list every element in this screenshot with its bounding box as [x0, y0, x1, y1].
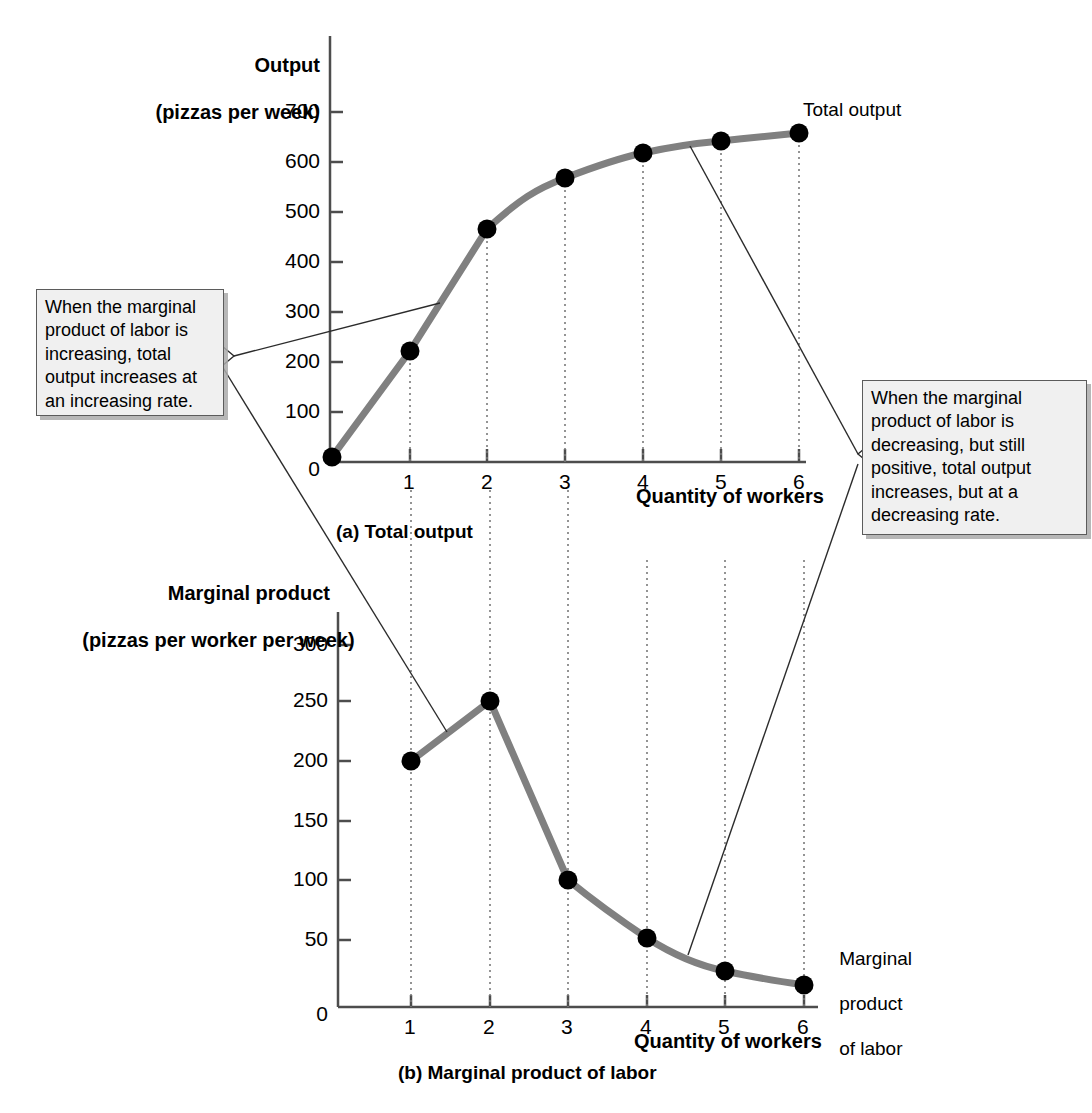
panel-a-ytick-700: 700	[250, 99, 320, 124]
panel-a-ytick-0: 0	[250, 457, 320, 482]
panel-a-x-axis-title: Quantity of workers	[636, 485, 824, 509]
panel-a-ytick-200: 200	[250, 349, 320, 374]
panel-a-data-markers	[323, 124, 809, 467]
figure-svg	[0, 0, 1092, 1113]
panel-b-y-axis-title-line1: Marginal product	[168, 582, 330, 604]
panel-b-data-markers	[402, 692, 814, 995]
panel-b-caption: (b) Marginal product of labor	[398, 1062, 657, 1084]
panel-a-ytick-600: 600	[250, 149, 320, 174]
marginal-product-curve-label-line1: Marginal	[839, 948, 912, 969]
panel-b-ytick-300: 300	[258, 632, 328, 657]
callout-diminishing-returns: When the marginal product of labor is de…	[862, 380, 1087, 535]
panel-a-axes	[330, 36, 806, 462]
panel-a-xtick-2: 2	[481, 470, 493, 495]
panel-b-ytick-100: 100	[258, 867, 328, 892]
marginal-product-curve-label: Marginal product of labor	[818, 926, 912, 1083]
panel-a-ytick-300: 300	[250, 299, 320, 324]
panel-a-y-axis-title: Output (pizzas per week)	[120, 30, 320, 148]
total-output-curve-label: Total output	[803, 99, 901, 121]
panel-b-droplines	[411, 490, 804, 1007]
marginal-product-curve	[411, 701, 804, 985]
panel-a-xtick-3: 3	[559, 470, 571, 495]
panel-b-ytick-50: 50	[258, 927, 328, 952]
panel-b-xtick-1: 1	[404, 1015, 416, 1040]
panel-a-xtick-1: 1	[403, 470, 415, 495]
panel-a-caption: (a) Total output	[336, 521, 473, 543]
panel-b-ytick-250: 250	[258, 688, 328, 713]
panel-b-ytick-200: 200	[258, 748, 328, 773]
panel-b-ytick-150: 150	[258, 808, 328, 833]
figure-container: Output (pizzas per week) 700 600 500 400…	[0, 0, 1092, 1113]
marginal-product-curve-label-line3: of labor	[839, 1038, 902, 1059]
panel-b-xtick-2: 2	[483, 1015, 495, 1040]
marginal-product-curve-label-line2: product	[839, 993, 902, 1014]
panel-a-ytick-500: 500	[250, 199, 320, 224]
callout-increasing-returns: When the marginal product of labor is in…	[36, 289, 224, 416]
panel-a-y-axis-title-line1: Output	[254, 54, 320, 76]
panel-b-xtick-3: 3	[561, 1015, 573, 1040]
panel-b-ytick-0: 0	[258, 1002, 328, 1027]
panel-a-ytick-100: 100	[250, 399, 320, 424]
panel-b-x-axis-title: Quantity of workers	[634, 1030, 822, 1054]
panel-a-ytick-400: 400	[250, 249, 320, 274]
panel-a-droplines	[410, 133, 799, 462]
panel-b-y-axis-title: Marginal product (pizzas per worker per …	[60, 558, 330, 676]
